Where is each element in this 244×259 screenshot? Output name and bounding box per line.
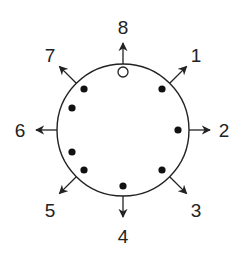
main-circle xyxy=(57,64,189,196)
filled-dot xyxy=(80,166,87,173)
direction-arrow-7 xyxy=(59,66,76,83)
filled-dot xyxy=(80,85,87,92)
direction-arrow-1 xyxy=(170,66,187,83)
filled-dot xyxy=(68,104,75,111)
filled-dot xyxy=(119,182,126,189)
direction-labels: 12345678 xyxy=(15,17,230,247)
direction-label-1: 1 xyxy=(191,45,202,66)
direction-label-2: 2 xyxy=(219,120,230,141)
position-dots xyxy=(68,67,181,190)
direction-label-6: 6 xyxy=(15,120,26,141)
filled-dot xyxy=(68,148,75,155)
direction-arrow-3 xyxy=(170,177,187,194)
direction-label-8: 8 xyxy=(118,17,129,38)
direction-label-5: 5 xyxy=(45,200,56,221)
filled-dot xyxy=(174,126,181,133)
filled-dot xyxy=(158,85,165,92)
direction-label-4: 4 xyxy=(118,226,129,247)
filled-dot xyxy=(158,166,165,173)
direction-label-7: 7 xyxy=(45,45,56,66)
direction-arrow-5 xyxy=(59,177,76,194)
direction-diagram: 12345678 xyxy=(0,0,244,259)
open-dot xyxy=(118,67,128,77)
direction-label-3: 3 xyxy=(191,200,202,221)
